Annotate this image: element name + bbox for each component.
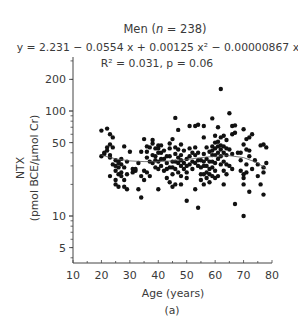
- chart-title: Men (n = 238): [123, 22, 206, 36]
- data-point: [241, 214, 245, 218]
- data-point: [179, 182, 183, 186]
- data-point: [196, 151, 200, 155]
- data-point: [116, 185, 120, 189]
- data-point: [241, 142, 245, 146]
- data-point: [139, 195, 143, 199]
- data-point: [173, 182, 177, 186]
- data-point: [139, 174, 143, 178]
- data-point: [239, 158, 243, 162]
- data-point: [193, 145, 197, 149]
- data-point: [222, 134, 226, 138]
- data-point: [105, 148, 109, 152]
- data-point: [230, 167, 234, 171]
- data-point: [176, 147, 180, 151]
- data-point: [185, 199, 189, 203]
- data-point: [179, 174, 183, 178]
- data-point: [113, 169, 117, 173]
- data-point: [233, 123, 237, 127]
- data-point: [119, 157, 123, 161]
- data-point: [125, 187, 129, 191]
- data-point: [230, 152, 234, 156]
- data-point: [145, 150, 149, 154]
- data-point: [108, 174, 112, 178]
- y-tick-label: 200: [45, 73, 66, 86]
- x-tick-label: 10: [66, 269, 80, 282]
- data-point: [258, 182, 262, 186]
- data-point: [168, 180, 172, 184]
- data-point: [122, 178, 126, 182]
- data-point: [250, 132, 254, 136]
- data-point: [202, 182, 206, 186]
- data-point: [222, 182, 226, 186]
- data-point: [142, 137, 146, 141]
- data-point: [213, 134, 217, 138]
- data-point: [216, 125, 220, 129]
- y-tick-label: 100: [45, 105, 66, 118]
- data-point: [122, 165, 126, 169]
- data-point: [264, 161, 268, 165]
- data-point: [204, 145, 208, 149]
- data-point: [199, 178, 203, 182]
- data-point: [176, 128, 180, 132]
- data-point: [133, 169, 137, 173]
- data-point: [250, 167, 254, 171]
- data-point: [153, 154, 157, 158]
- data-point: [227, 147, 231, 151]
- data-point: [122, 144, 126, 148]
- data-point: [145, 170, 149, 174]
- data-point: [202, 124, 206, 128]
- y-tick-label: 5: [59, 242, 66, 255]
- x-tick-labels: 1020304050607080: [66, 269, 279, 282]
- x-tick-label: 20: [94, 269, 108, 282]
- data-point: [256, 174, 260, 178]
- data-point: [111, 145, 115, 149]
- data-point: [150, 141, 154, 145]
- scatter-chart: Men (n = 238) y = 2.231 − 0.0554 x + 0.0…: [0, 0, 298, 336]
- data-point: [187, 154, 191, 158]
- data-point: [261, 192, 265, 196]
- y-tick-label: 10: [52, 210, 66, 223]
- data-point: [190, 167, 194, 171]
- data-point: [227, 111, 231, 115]
- data-point: [216, 174, 220, 178]
- data-point: [170, 137, 174, 141]
- data-point: [136, 187, 140, 191]
- data-point: [187, 146, 191, 150]
- data-point: [244, 162, 248, 166]
- data-point: [165, 176, 169, 180]
- data-point: [239, 169, 243, 173]
- data-point: [193, 187, 197, 191]
- x-tick-label: 40: [151, 269, 165, 282]
- y-tick-labels: 51050100200: [45, 73, 66, 254]
- data-point: [222, 169, 226, 173]
- data-point: [156, 187, 160, 191]
- data-point: [168, 141, 172, 145]
- data-point: [182, 148, 186, 152]
- data-point: [202, 135, 206, 139]
- data-point: [125, 172, 129, 176]
- data-point: [142, 178, 146, 182]
- data-point: [168, 154, 172, 158]
- data-point: [233, 131, 237, 135]
- data-point: [224, 172, 228, 176]
- data-point: [204, 176, 208, 180]
- y-tick-label: 50: [52, 137, 66, 150]
- data-point: [216, 140, 220, 144]
- data-point: [176, 170, 180, 174]
- data-points: [99, 87, 268, 218]
- fit-stats: R² = 0.031, p = 0.06: [101, 57, 213, 70]
- data-point: [239, 151, 243, 155]
- panel-label: (a): [164, 304, 179, 317]
- data-point: [213, 161, 217, 165]
- data-point: [241, 127, 245, 131]
- x-tick-label: 30: [123, 269, 137, 282]
- data-point: [207, 180, 211, 184]
- data-point: [233, 202, 237, 206]
- data-point: [162, 148, 166, 152]
- data-point: [219, 87, 223, 91]
- data-point: [224, 153, 228, 157]
- data-point: [173, 152, 177, 156]
- data-point: [244, 170, 248, 174]
- data-point: [179, 153, 183, 157]
- data-point: [261, 170, 265, 174]
